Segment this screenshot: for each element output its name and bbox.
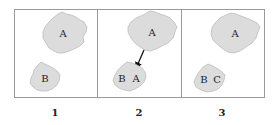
blob-label: A — [230, 28, 239, 39]
panel-number: 2 — [136, 107, 143, 118]
panel-1: A B 1 — [30, 12, 87, 118]
panel-2: A B A 2 — [113, 11, 177, 118]
panel-number: 3 — [219, 107, 226, 118]
blob-label: C — [213, 74, 221, 85]
blob-label: B — [118, 73, 125, 84]
three-panel-diagram: A B 1 A B A 2 A B C 3 — [0, 0, 276, 125]
blob-label: A — [131, 73, 140, 84]
blob-label: A — [58, 28, 67, 39]
blob-label: B — [41, 73, 48, 84]
panel-3: A B C 3 — [194, 13, 260, 118]
blob-label: A — [147, 27, 156, 38]
blob-label: B — [200, 74, 207, 85]
arrow-icon — [137, 50, 144, 66]
panel-number: 1 — [52, 107, 59, 118]
